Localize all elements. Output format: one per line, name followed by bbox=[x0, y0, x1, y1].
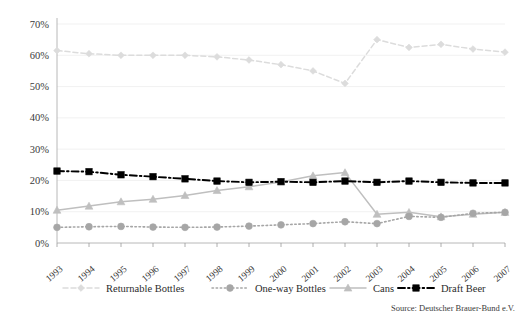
x-tick-label: 2005 bbox=[428, 264, 449, 284]
x-tick-label: 2002 bbox=[332, 264, 353, 284]
gridlines bbox=[57, 24, 505, 243]
series-returnable-bottles bbox=[54, 36, 509, 87]
data-point-marker bbox=[310, 220, 317, 227]
source-note: Source: Deutscher Brauer-Bund e.V. bbox=[391, 303, 515, 313]
chart-legend: Returnable BottlesOne-way BottlesCansDra… bbox=[63, 283, 486, 294]
y-tick-label: 40% bbox=[30, 112, 50, 123]
data-point-marker bbox=[78, 285, 85, 292]
chart-canvas: 0%10%20%30%40%50%60%70%19931994199519961… bbox=[0, 0, 525, 319]
y-tick-label: 10% bbox=[30, 206, 50, 217]
data-point-marker bbox=[182, 52, 189, 59]
data-point-marker bbox=[150, 173, 156, 179]
legend-label: Returnable Bottles bbox=[106, 283, 184, 294]
data-point-marker bbox=[54, 47, 61, 54]
data-point-marker bbox=[278, 221, 285, 228]
data-point-marker bbox=[438, 179, 444, 185]
data-point-marker bbox=[150, 52, 157, 59]
data-point-marker bbox=[86, 50, 93, 57]
data-point-marker bbox=[502, 49, 509, 56]
data-point-marker bbox=[54, 168, 60, 174]
x-tick-label: 2004 bbox=[396, 264, 417, 284]
data-point-marker bbox=[214, 178, 220, 184]
x-tick-label: 1994 bbox=[76, 264, 97, 284]
data-point-marker bbox=[278, 61, 285, 68]
data-point-marker bbox=[374, 220, 381, 227]
data-point-marker bbox=[182, 224, 189, 231]
legend-item-one-way-bottles[interactable]: One-way Bottles bbox=[212, 283, 326, 294]
y-tick-label: 50% bbox=[30, 81, 50, 92]
data-point-marker bbox=[406, 213, 413, 220]
beverage-packaging-line-chart: 0%10%20%30%40%50%60%70%19931994199519961… bbox=[0, 0, 525, 319]
data-point-marker bbox=[470, 210, 477, 217]
series-draft-beer bbox=[54, 168, 508, 186]
y-tick-label: 0% bbox=[35, 238, 49, 249]
x-tick-label: 1996 bbox=[140, 264, 161, 284]
data-point-marker bbox=[406, 178, 412, 184]
data-point-marker bbox=[118, 223, 125, 230]
data-point-marker bbox=[502, 180, 508, 186]
data-point-marker bbox=[118, 52, 125, 59]
data-point-marker bbox=[278, 178, 284, 184]
data-point-marker bbox=[246, 57, 253, 64]
data-point-marker bbox=[246, 223, 253, 230]
data-point-marker bbox=[214, 53, 221, 60]
x-tick-label: 1995 bbox=[108, 264, 129, 284]
x-tick-label: 2000 bbox=[268, 264, 289, 284]
x-tick-label: 1993 bbox=[44, 264, 65, 284]
data-point-marker bbox=[86, 168, 92, 174]
data-point-marker bbox=[118, 172, 124, 178]
data-point-marker bbox=[246, 179, 252, 185]
y-tick-label: 70% bbox=[30, 19, 50, 30]
y-tick-label: 60% bbox=[30, 50, 50, 61]
data-point-marker bbox=[182, 176, 188, 182]
data-point-marker bbox=[150, 224, 157, 231]
data-point-marker bbox=[342, 178, 348, 184]
data-point-marker bbox=[342, 80, 349, 87]
x-tick-label: 2001 bbox=[300, 264, 321, 284]
x-tick-label: 2003 bbox=[364, 264, 385, 284]
y-tick-label: 20% bbox=[30, 175, 50, 186]
legend-item-cans[interactable]: Cans bbox=[330, 283, 394, 294]
data-point-marker bbox=[374, 179, 380, 185]
x-tick-label: 1999 bbox=[236, 264, 257, 284]
x-axis-tick-labels: 1993199419951996199719981999200020012002… bbox=[44, 243, 513, 284]
data-point-marker bbox=[54, 224, 61, 231]
x-tick-label: 1997 bbox=[172, 264, 193, 284]
data-point-marker bbox=[86, 223, 93, 230]
data-point-marker bbox=[406, 44, 413, 51]
legend-label: One-way Bottles bbox=[255, 283, 326, 294]
data-point-marker bbox=[227, 285, 234, 292]
x-tick-label: 2006 bbox=[460, 264, 481, 284]
data-point-marker bbox=[374, 36, 381, 43]
series-one-way-bottles bbox=[54, 209, 509, 231]
data-point-marker bbox=[214, 224, 221, 231]
legend-item-returnable-bottles[interactable]: Returnable Bottles bbox=[63, 283, 184, 294]
data-point-marker bbox=[310, 179, 316, 185]
data-point-marker bbox=[342, 218, 349, 225]
y-axis-tick-labels: 0%10%20%30%40%50%60%70% bbox=[30, 19, 50, 249]
y-tick-label: 30% bbox=[30, 144, 50, 155]
legend-label: Cans bbox=[373, 283, 394, 294]
legend-label: Draft Beer bbox=[441, 283, 486, 294]
data-point-marker bbox=[310, 68, 317, 75]
data-point-marker bbox=[438, 214, 445, 221]
data-point-marker bbox=[438, 41, 445, 48]
data-point-marker bbox=[413, 285, 419, 291]
data-point-marker bbox=[470, 46, 477, 53]
x-tick-label: 2007 bbox=[492, 264, 513, 284]
x-tick-label: 1998 bbox=[204, 264, 225, 284]
legend-item-draft-beer[interactable]: Draft Beer bbox=[398, 283, 486, 294]
data-point-marker bbox=[502, 209, 509, 216]
data-point-marker bbox=[470, 180, 476, 186]
